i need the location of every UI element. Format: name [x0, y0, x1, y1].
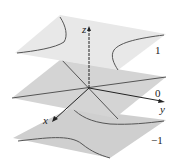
level-label-0: 0 — [155, 88, 161, 99]
x-axis-label: x — [43, 115, 48, 126]
level-label-minus-1: −1 — [151, 135, 163, 146]
plane-z-1 — [15, 15, 166, 70]
y-axis-label: y — [160, 104, 165, 115]
plane-z-minus-1 — [13, 108, 166, 158]
z-axis-label: z — [82, 24, 86, 35]
level-label-1: 1 — [155, 45, 161, 56]
